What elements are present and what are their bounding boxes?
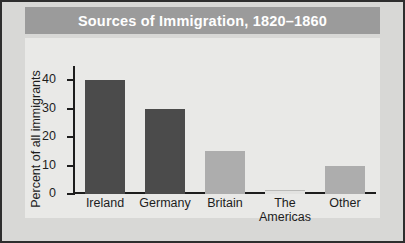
bar: [265, 190, 305, 194]
bar-slot: [325, 66, 365, 194]
bar: [325, 166, 365, 194]
bar-slot: [265, 66, 305, 194]
y-tick-mark: [67, 165, 75, 167]
chart-title: Sources of Immigration, 1820–1860: [78, 13, 327, 29]
bar: [145, 109, 185, 194]
bar-slot: [145, 66, 185, 194]
plot-area: Percent of all immigrants 010203040 Irel…: [25, 38, 380, 218]
bars-group: [75, 66, 375, 194]
x-category-label-line: Americas: [247, 211, 323, 225]
bar-slot: [205, 66, 245, 194]
y-tick-mark: [67, 136, 75, 138]
bar: [85, 80, 125, 194]
chart-figure: Sources of Immigration, 1820–1860 Percen…: [0, 0, 405, 243]
y-tick-label: 10: [30, 159, 56, 172]
x-category-label-line: Other: [307, 197, 383, 211]
bar: [205, 151, 245, 194]
chart-title-band: Sources of Immigration, 1820–1860: [25, 7, 380, 34]
y-tick-label: 40: [30, 73, 56, 86]
y-tick-mark: [67, 193, 75, 195]
y-tick-mark: [67, 108, 75, 110]
x-category-label: Other: [307, 197, 383, 211]
y-tick-label: 20: [30, 130, 56, 143]
y-tick-mark: [67, 79, 75, 81]
y-tick-label: 0: [30, 187, 56, 200]
bar-slot: [85, 66, 125, 194]
y-tick-label: 30: [30, 102, 56, 115]
